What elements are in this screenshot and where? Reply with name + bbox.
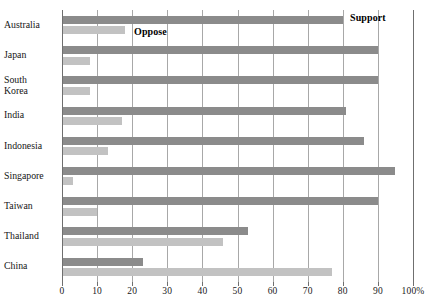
- category-label-australia: Australia: [4, 19, 58, 30]
- bar-oppose-6: [62, 208, 97, 216]
- bar-oppose-0: [62, 26, 125, 34]
- bar-support-3: [62, 107, 346, 115]
- category-label-singapore: Singapore: [4, 170, 58, 181]
- category-label-indonesia: Indonesia: [4, 140, 58, 151]
- category-label-india: India: [4, 109, 58, 120]
- tick-label-10: 10: [92, 286, 102, 296]
- y-axis-line: [62, 10, 63, 282]
- bar-support-8: [62, 258, 143, 266]
- tick-label-80: 80: [338, 286, 348, 296]
- bar-oppose-5: [62, 177, 73, 185]
- category-label-japan: Japan: [4, 49, 58, 60]
- category-label-china: China: [4, 260, 58, 271]
- bar-support-2: [62, 76, 378, 84]
- gridline-90: [378, 10, 379, 282]
- support-series-label: Support: [350, 12, 386, 23]
- bar-oppose-8: [62, 268, 332, 276]
- bar-support-4: [62, 137, 364, 145]
- tick-label-20: 20: [127, 286, 137, 296]
- tick-label-50: 50: [233, 286, 243, 296]
- oppose-series-label: Oppose: [134, 26, 167, 37]
- bar-support-6: [62, 197, 378, 205]
- bar-chart: Australia Japan South Korea India Indone…: [0, 0, 431, 308]
- bar-oppose-1: [62, 57, 90, 65]
- bar-oppose-3: [62, 117, 122, 125]
- bar-support-0: [62, 16, 343, 24]
- category-label-thailand: Thailand: [4, 230, 58, 241]
- tick-label-40: 40: [197, 286, 207, 296]
- category-label-south-korea: South Korea: [4, 74, 58, 96]
- tick-label-70: 70: [303, 286, 313, 296]
- tick-label-90: 90: [373, 286, 383, 296]
- bar-support-7: [62, 227, 248, 235]
- bar-oppose-2: [62, 87, 90, 95]
- plot-right-border: [413, 10, 414, 282]
- bar-support-1: [62, 46, 378, 54]
- tick-label-100: 100%: [402, 286, 425, 296]
- plot-area: [62, 10, 413, 282]
- tick-label-30: 30: [162, 286, 172, 296]
- bar-oppose-4: [62, 147, 108, 155]
- tick-label-0: 0: [60, 286, 65, 296]
- bar-support-5: [62, 167, 395, 175]
- tick-label-60: 60: [268, 286, 278, 296]
- category-label-taiwan: Taiwan: [4, 200, 58, 211]
- bar-oppose-7: [62, 238, 223, 246]
